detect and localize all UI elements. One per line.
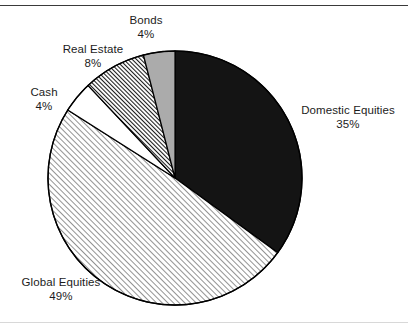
pie-label-bonds-percent: 4% — [105, 28, 187, 42]
pie-label-global-equities-percent: 49% — [2, 290, 120, 304]
pie-label-domestic-equities-percent: 35% — [289, 118, 407, 132]
pie-chart: Bonds 4% Real Estate 8% Cash 4% Domestic… — [0, 0, 408, 329]
pie-label-bonds: Bonds 4% — [105, 14, 187, 41]
pie-label-real-estate-percent: 8% — [38, 57, 148, 71]
pie-label-global-equities: Global Equities 49% — [2, 276, 120, 303]
pie-label-real-estate-name: Real Estate — [38, 43, 148, 57]
pie-label-cash-percent: 4% — [10, 100, 78, 114]
pie-label-cash: Cash 4% — [10, 86, 78, 113]
pie-slice-group — [48, 51, 302, 305]
pie-label-cash-name: Cash — [10, 86, 78, 100]
pie-label-bonds-name: Bonds — [105, 14, 187, 28]
page-canvas: Bonds 4% Real Estate 8% Cash 4% Domestic… — [0, 0, 408, 329]
pie-label-global-equities-name: Global Equities — [2, 276, 120, 290]
pie-label-real-estate: Real Estate 8% — [38, 43, 148, 70]
pie-label-domestic-equities: Domestic Equities 35% — [289, 104, 407, 131]
pie-label-domestic-equities-name: Domestic Equities — [289, 104, 407, 118]
